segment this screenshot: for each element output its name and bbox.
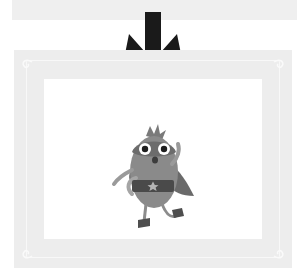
superhero-bird-character (110, 122, 205, 232)
frame-corner-ornament-icon (18, 246, 36, 264)
frame-corner-ornament-icon (270, 246, 288, 264)
frame-corner-ornament-icon (270, 54, 288, 72)
frame-corner-ornament-icon (18, 54, 36, 72)
